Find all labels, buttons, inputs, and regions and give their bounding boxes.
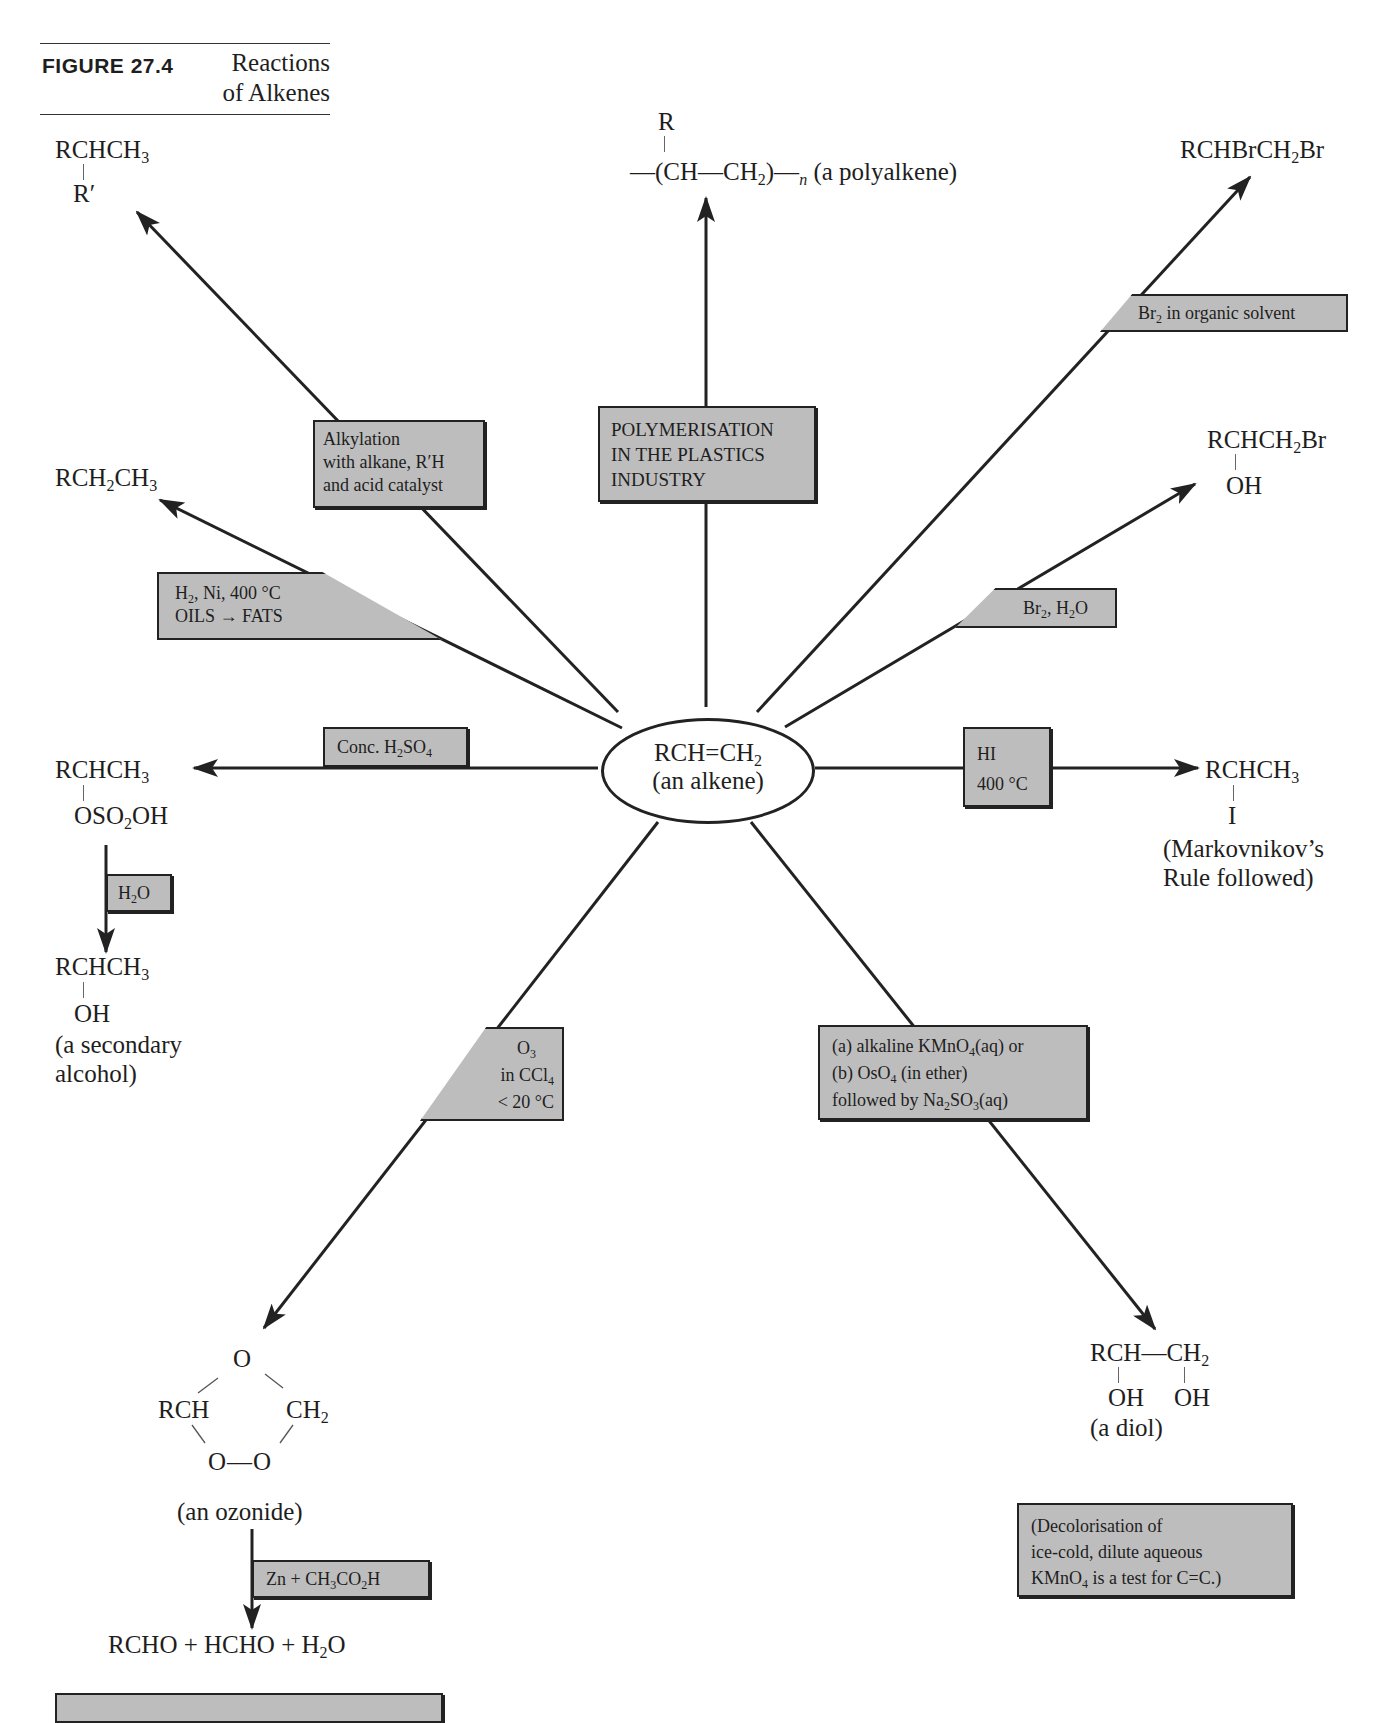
condition-zinc-reduction: Zn + CH3CO2H (252, 1560, 430, 1598)
kmno4-test-note: (Decolorisation of ice-cold, dilute aque… (1017, 1503, 1293, 1597)
bond-line (1233, 785, 1234, 801)
ozonide-bottom: O—O (208, 1448, 272, 1476)
product-secondary-alcohol: RCHCH3 (55, 953, 149, 981)
product-alkane: RCH2CH3 (55, 464, 157, 492)
product-polymer-label: (a polyalkene) (813, 158, 957, 185)
ozonide-top-oxygen: O (233, 1345, 251, 1373)
ozonide-right: CH2 (286, 1396, 329, 1424)
bottom-partial-box (55, 1693, 443, 1723)
secondary-alcohol-caption: (a secondary alcohol) (55, 1030, 182, 1088)
product-alkylation-branch: R′ (73, 180, 95, 208)
ozonide-left: RCH (158, 1396, 209, 1424)
bond-line (1235, 454, 1236, 470)
product-iodoalkane: RCHCH3 (1205, 756, 1299, 784)
diol-caption: (a diol) (1090, 1413, 1163, 1442)
condition-hydrogen-iodide: HI 400 °C (963, 727, 1051, 807)
product-diol: RCH—CH2 (1090, 1339, 1209, 1367)
ozonolysis-products: RCHO + HCHO + H2O (108, 1631, 346, 1659)
product-polymer-branch: R (658, 108, 675, 136)
bond-line (1118, 1367, 1119, 1383)
product-bromohydrin-branch: OH (1226, 472, 1262, 500)
product-bromohydrin: RCHCH2Br (1207, 426, 1326, 454)
condition-polymerisation: POLYMERISATION IN THE PLASTICS INDUSTRY (598, 406, 816, 502)
alkene-caption: (an alkene) (604, 767, 812, 795)
product-hydrogen-sulfate-branch: OSO2OH (74, 802, 168, 830)
markovnikov-note: (Markovnikov’s Rule followed) (1163, 834, 1324, 892)
product-iodoalkane-branch: I (1228, 802, 1236, 830)
condition-hydrolysis: H2O (106, 874, 172, 912)
condition-oxidation: (a) alkaline KMnO4(aq) or (b) OsO4 (in e… (818, 1025, 1088, 1120)
product-polymer: —(CH—CH2)—n (a polyalkene) (630, 158, 957, 186)
ozonide-caption: (an ozonide) (177, 1497, 303, 1526)
product-alkylation: RCHCH3 (55, 136, 149, 164)
product-secondary-alcohol-branch: OH (74, 1000, 110, 1028)
diol-oh-2: OH (1174, 1384, 1210, 1412)
alkene-center-node: RCH=CH2 (an alkene) (601, 718, 815, 824)
arrow-bromination (757, 177, 1250, 712)
product-hydrogen-sulfate: RCHCH3 (55, 756, 149, 784)
condition-bromination: Br2 in organic solvent (1100, 294, 1348, 332)
bond-line (664, 136, 665, 152)
bond-line (83, 785, 84, 801)
bond-line (83, 164, 84, 180)
condition-alkylation: Alkylation with alkane, R′H and acid cat… (313, 420, 485, 508)
product-dibromide: RCHBrCH2Br (1180, 136, 1324, 164)
alkene-formula-mid: =CH (705, 739, 754, 766)
bond-line (1184, 1367, 1185, 1383)
condition-sulfuric-acid: Conc. H2SO4 (323, 727, 468, 767)
bond-line (83, 982, 84, 998)
diol-oh-1: OH (1108, 1384, 1144, 1412)
alkene-formula-left: RCH (654, 739, 705, 766)
